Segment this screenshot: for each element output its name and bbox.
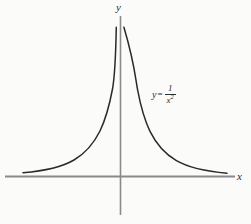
y-axis-label: y bbox=[116, 2, 121, 13]
x-axis-label: x bbox=[237, 171, 242, 182]
equation-equals-sign: = bbox=[157, 90, 162, 99]
figure-canvas: y x y = 1 x2 bbox=[0, 0, 251, 224]
fraction-denominator: x2 bbox=[165, 95, 176, 105]
curve-left-branch bbox=[23, 27, 116, 173]
equation-fraction: 1 x2 bbox=[165, 84, 176, 105]
curve-equation-annotation: y = 1 x2 bbox=[152, 84, 176, 105]
graph-plot bbox=[0, 0, 251, 224]
equation-left-side: y bbox=[152, 90, 156, 100]
denominator-exponent: 2 bbox=[171, 93, 174, 100]
